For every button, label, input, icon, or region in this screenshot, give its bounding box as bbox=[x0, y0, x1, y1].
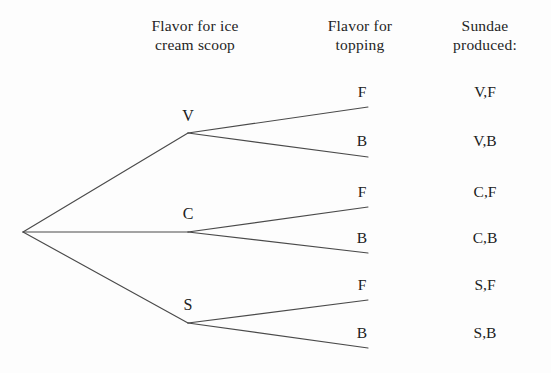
edge-root-to-v bbox=[23, 133, 188, 232]
column-header-scoop: Flavor for ice cream scoop bbox=[120, 16, 270, 54]
edge-s-to-b bbox=[188, 323, 368, 348]
node-label-c: C bbox=[175, 206, 201, 222]
outcome-vb: V,B bbox=[450, 133, 520, 149]
probability-tree-figure: Flavor for ice cream scoop Flavor for to… bbox=[0, 0, 551, 373]
outcome-sb: S,B bbox=[450, 325, 520, 341]
edge-v-to-b bbox=[188, 133, 368, 157]
node-label-v: V bbox=[175, 108, 201, 124]
node-label-s: S bbox=[175, 297, 201, 313]
column-header-outcome: Sundae produced: bbox=[425, 16, 545, 54]
outcome-cf: C,F bbox=[450, 184, 520, 200]
edge-c-to-b bbox=[188, 232, 368, 253]
edge-v-to-f bbox=[188, 107, 368, 133]
edge-label-c-b: B bbox=[350, 230, 374, 246]
column-header-topping: Flavor for topping bbox=[305, 16, 415, 54]
edge-root-to-s bbox=[23, 232, 188, 323]
edge-s-to-f bbox=[188, 300, 368, 323]
edge-label-c-f: F bbox=[350, 184, 374, 200]
edge-label-s-f: F bbox=[350, 277, 374, 293]
outcome-cb: C,B bbox=[450, 230, 520, 246]
outcome-vf: V,F bbox=[450, 84, 520, 100]
edge-c-to-f bbox=[188, 207, 368, 232]
edge-label-s-b: B bbox=[350, 325, 374, 341]
edge-label-v-b: B bbox=[350, 133, 374, 149]
edge-label-v-f: F bbox=[350, 84, 374, 100]
outcome-sf: S,F bbox=[450, 277, 520, 293]
